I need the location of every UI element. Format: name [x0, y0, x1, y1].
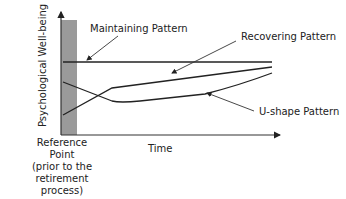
reference-band	[61, 20, 77, 135]
ushape-label: U-shape Pattern	[259, 106, 339, 117]
recovering-label: Recovering Pattern	[241, 31, 336, 42]
ref-line-4: process)	[6, 185, 118, 197]
ref-line-1: Reference	[6, 137, 118, 149]
ref-line-2: Point	[6, 149, 118, 161]
ref-line-3: (prior to the retirement	[6, 161, 118, 185]
ushape-arrow	[207, 93, 254, 111]
x-axis-label: Time	[148, 143, 172, 154]
y-axis-label: Psychological Well-being	[37, 4, 48, 127]
maintaining-label: Maintaining Pattern	[90, 23, 188, 34]
recovering-arrow	[172, 41, 236, 73]
reference-point-label: Reference Point (prior to the retirement…	[6, 137, 118, 197]
recovering-line	[63, 67, 272, 115]
maintaining-arrow	[87, 36, 118, 60]
